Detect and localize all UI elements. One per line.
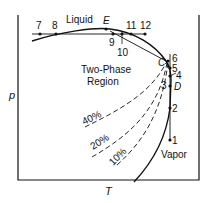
- point-D-label: D: [174, 81, 181, 92]
- phase-diagram: Liquid Two-Phase Region Vapor 7 8 E 9 10…: [0, 0, 207, 203]
- point-2-label: 2: [172, 103, 178, 114]
- point-7-label: 7: [36, 20, 42, 31]
- point-8-label: 8: [52, 20, 58, 31]
- x-axis-label: T: [105, 185, 113, 197]
- point-1-label: 1: [172, 135, 178, 146]
- quality-20-label: 20%: [88, 131, 111, 151]
- two-phase-label-2: Region: [87, 76, 119, 87]
- y-axis-label: p: [8, 89, 15, 101]
- vapor-label: Vapor: [161, 149, 188, 160]
- saturation-curve: [32, 29, 171, 182]
- point-C-label: C: [158, 57, 166, 68]
- point-10-label: 10: [117, 47, 129, 58]
- point-9-label: 9: [109, 37, 115, 48]
- two-phase-label-1: Two-Phase: [81, 64, 131, 75]
- quality-10-label: 10%: [107, 145, 129, 167]
- point-4-label: 4: [176, 70, 182, 81]
- quality-40-label: 40%: [80, 108, 103, 126]
- point-12-label: 12: [140, 20, 152, 31]
- liquid-label: Liquid: [66, 14, 93, 25]
- point-11-label: 11: [126, 20, 137, 31]
- point-E-label: E: [103, 15, 110, 26]
- point-3-label: 3: [161, 80, 167, 91]
